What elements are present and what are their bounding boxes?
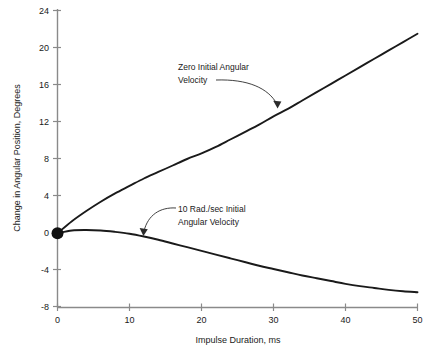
y-tick-label-24: 24 xyxy=(39,6,49,16)
ten-rad-per-sec-arrowhead xyxy=(140,228,148,236)
ten-rad-per-sec-annotation-line2: Angular Velocity xyxy=(178,217,240,227)
y-tick-label-12: 12 xyxy=(39,117,49,127)
y-tick-label-4: 4 xyxy=(44,191,49,201)
chart-figure: 24 20 16 12 8 4 0 -4 -8 0 10 20 30 40 50 xyxy=(0,0,429,350)
zero-initial-velocity-annotation-line2: Velocity xyxy=(178,75,208,85)
ten-rad-per-sec-leader-line xyxy=(144,208,176,231)
ten-rad-per-sec-annotation-line1: 10 Rad./sec Initial xyxy=(178,204,246,214)
y-tick-label-minus4: -4 xyxy=(41,265,49,275)
x-axis-title: Impulse Duration, ms xyxy=(195,335,281,345)
x-tick-label-10: 10 xyxy=(124,315,134,325)
curve-ten-rad-per-sec-initial-angular-velocity xyxy=(58,230,418,292)
y-tick-label-8: 8 xyxy=(44,154,49,164)
y-tick-label-16: 16 xyxy=(39,80,49,90)
chart-plot-area: 24 20 16 12 8 4 0 -4 -8 0 10 20 30 40 50 xyxy=(0,0,429,350)
y-tick-label-0: 0 xyxy=(44,228,49,238)
x-tick-label-30: 30 xyxy=(268,315,278,325)
zero-initial-velocity-arrowhead xyxy=(273,101,281,109)
ten-rad-per-sec-annotation: 10 Rad./sec Initial Angular Velocity xyxy=(140,204,246,236)
y-tick-label-minus8: -8 xyxy=(41,302,49,312)
x-axis-tick-labels: 0 10 20 30 40 50 xyxy=(55,315,423,325)
x-tick-label-40: 40 xyxy=(340,315,350,325)
y-tick-label-20: 20 xyxy=(39,43,49,53)
x-tick-label-20: 20 xyxy=(196,315,206,325)
x-tick-label-50: 50 xyxy=(412,315,422,325)
origin-marker-dot xyxy=(52,227,64,239)
zero-initial-velocity-annotation: Zero Initial Angular Velocity xyxy=(178,62,281,109)
y-axis-tick-labels: 24 20 16 12 8 4 0 -4 -8 xyxy=(39,6,49,312)
zero-initial-velocity-annotation-line1: Zero Initial Angular xyxy=(178,62,249,72)
x-tick-label-0: 0 xyxy=(55,315,60,325)
y-axis-title: Change in Angular Position, Degrees xyxy=(12,84,22,232)
zero-initial-velocity-leader-line xyxy=(216,80,277,104)
